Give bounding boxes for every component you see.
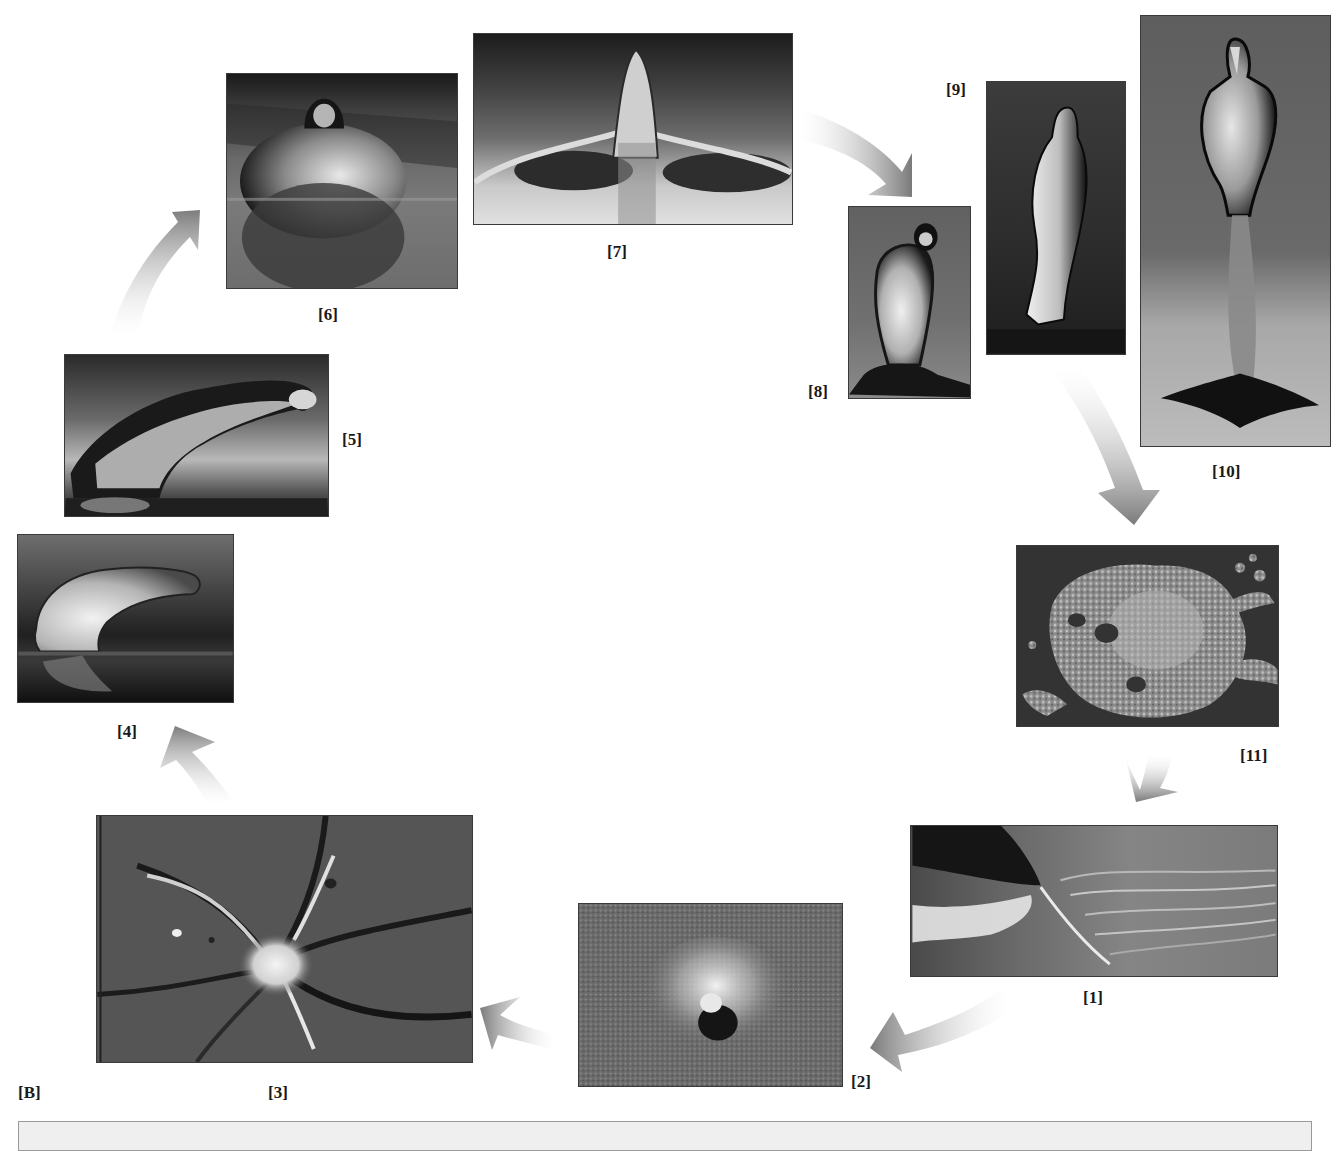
cell-streams-pattern	[911, 826, 1277, 976]
fruiting-body-shape	[1141, 16, 1330, 446]
arrow-5-to-6	[110, 210, 200, 335]
stage-label-6: [6]	[318, 305, 338, 325]
aggregation-streams-shape	[97, 816, 472, 1062]
panel-label: [B]	[18, 1083, 41, 1103]
photo-stage-4	[17, 534, 234, 703]
photo-stage-6	[226, 73, 458, 289]
photo-stage-1	[910, 825, 1278, 977]
stage-label-11: [11]	[1240, 746, 1267, 766]
caption-box	[18, 1121, 1312, 1151]
sombrero-shape	[474, 34, 792, 224]
stage-label-1: [1]	[1083, 988, 1103, 1008]
stage-label-4: [4]	[117, 722, 137, 742]
photo-stage-7	[473, 33, 793, 225]
stage-label-10: [10]	[1212, 462, 1240, 482]
stage-label-7: [7]	[607, 242, 627, 262]
photo-stage-8	[848, 206, 971, 399]
stage-label-5: [5]	[342, 430, 362, 450]
stage-label-9: [9]	[946, 80, 966, 100]
arrow-3-to-4	[160, 726, 232, 805]
stage-label-2: [2]	[851, 1072, 871, 1092]
photo-stage-3	[96, 815, 473, 1063]
stage-label-8: [8]	[808, 382, 828, 402]
photo-stage-2	[578, 903, 843, 1087]
early-culminant-shape	[849, 207, 970, 398]
arrow-11-to-1	[1126, 755, 1178, 802]
aggregation-pattern	[1017, 546, 1278, 726]
standing-slug-shape	[18, 535, 233, 702]
arrow-2-to-3	[480, 997, 555, 1050]
stage-label-3: [3]	[268, 1083, 288, 1103]
arrow-1-to-2	[870, 990, 1010, 1072]
arrow-7-to-8	[800, 110, 912, 197]
mound-shape	[579, 904, 842, 1086]
photo-stage-11	[1016, 545, 1279, 727]
photo-stage-5	[64, 354, 329, 517]
mid-culminant-shape	[987, 82, 1125, 354]
photo-stage-9	[986, 81, 1126, 355]
mexican-hat-shape	[227, 74, 457, 288]
photo-stage-10	[1140, 15, 1331, 447]
migrating-slug-shape	[65, 355, 328, 516]
